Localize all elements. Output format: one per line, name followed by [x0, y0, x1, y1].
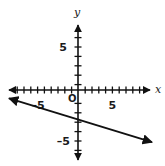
x-tick-label-positive-five: 5 — [109, 99, 117, 112]
y-tick-label-positive-five: 5 — [59, 41, 67, 54]
y-axis-label: y — [73, 6, 81, 19]
origin-label: O — [68, 93, 77, 104]
x-axis-label: x — [155, 83, 162, 96]
graph-screenshot: x –5 5 y 5 –5 O — [0, 0, 165, 166]
y-axis: y 5 –5 O — [57, 6, 82, 160]
y-tick-label-negative-five: –5 — [57, 135, 70, 148]
coordinate-plane-figure: x –5 5 y 5 –5 O — [0, 0, 165, 166]
plotted-line-series — [9, 98, 152, 142]
x-axis: x –5 5 — [9, 83, 162, 112]
line-graph — [9, 98, 152, 142]
